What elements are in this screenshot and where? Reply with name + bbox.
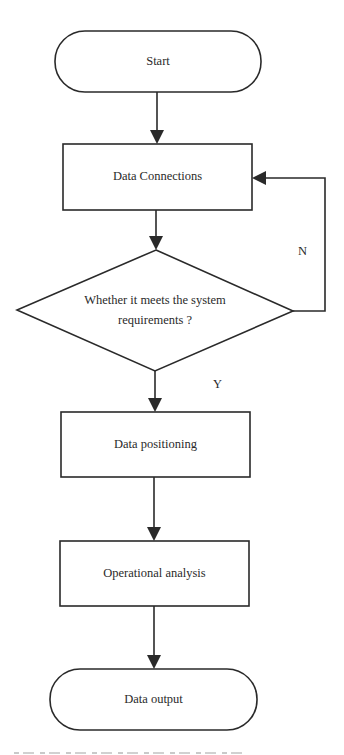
arrowhead-icon [149, 236, 163, 250]
cut-off-caption [0, 749, 344, 755]
flowchart-canvas [0, 0, 344, 755]
arrowhead-icon [148, 398, 162, 412]
start-label: Start [55, 54, 261, 69]
decision-label-line1: Whether it meets the system [17, 293, 293, 308]
decision-diamond [17, 250, 293, 371]
yes-edge-label: Y [213, 377, 222, 392]
data-positioning-label: Data positioning [61, 437, 250, 452]
arrowhead-icon [252, 171, 266, 185]
arrowhead-icon [147, 527, 161, 541]
data-connections-label: Data Connections [63, 169, 252, 184]
arrowhead-icon [150, 130, 164, 144]
operational-analysis-label: Operational analysis [60, 566, 249, 581]
no-edge-label: N [298, 244, 307, 259]
arrowhead-icon [147, 655, 161, 669]
decision-label-line2: requirements ? [17, 313, 293, 328]
arrow-no-loop [264, 178, 325, 311]
data-output-label: Data output [50, 692, 257, 707]
